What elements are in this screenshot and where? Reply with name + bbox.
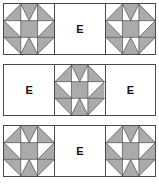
- star-block-cell: [4, 126, 54, 176]
- star-block-cell: [54, 65, 104, 115]
- block-label-e: E: [25, 85, 32, 96]
- star-block-cell: [4, 4, 54, 54]
- sawtooth-star-icon: [4, 4, 54, 54]
- plain-block-cell: E: [54, 126, 104, 176]
- star-block-cell: [105, 126, 155, 176]
- star-block-cell: [105, 4, 155, 54]
- block-label-e: E: [76, 24, 83, 35]
- quilt-row: E: [3, 64, 156, 116]
- sawtooth-star-icon: [55, 65, 104, 115]
- quilt-layout-diagram: E: [0, 0, 159, 188]
- block-label-e: E: [127, 85, 134, 96]
- plain-block-cell: E: [54, 4, 104, 54]
- plain-block-cell: E: [4, 65, 54, 115]
- quilt-row: E: [3, 3, 156, 55]
- sawtooth-star-icon: [106, 4, 155, 54]
- plain-block-cell: E: [105, 65, 155, 115]
- block-label-e: E: [76, 146, 83, 157]
- sawtooth-star-icon: [4, 126, 54, 176]
- sawtooth-star-icon: [106, 126, 155, 176]
- quilt-row: E: [3, 125, 156, 177]
